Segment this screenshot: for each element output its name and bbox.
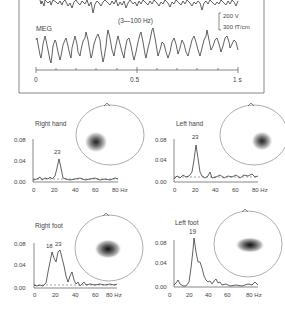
scale-bar (219, 13, 221, 30)
ytick: 0.04 (14, 262, 26, 268)
panel-right-foot: Right foot 18 23 0.08 0.04 0.00 0 20 40 … (14, 213, 143, 298)
scale-field: 300 fT/cm (223, 24, 250, 30)
xtick: 0 (173, 187, 177, 193)
ytick: 0.08 (14, 137, 26, 143)
xtick: 0 (168, 292, 172, 298)
eeg-trace (40, 0, 238, 13)
activation-blob (235, 237, 265, 253)
panel-title: Right hand (35, 120, 67, 128)
top-panel: (3—100 Hz) MEG 200 V 300 fT/cm 0 0.5 1 s (19, 0, 264, 93)
ytick: 0.08 (14, 241, 26, 247)
panel-right-hand: Right hand 23 0.08 0.04 0.00 0 20 40 60 … (14, 103, 144, 193)
xtick: 80 Hz (112, 187, 128, 193)
xtick: 20 (52, 292, 59, 298)
time-tick-1s: 1 s (233, 76, 242, 83)
panel-title: Left hand (176, 120, 203, 127)
meg-trace (36, 28, 238, 63)
panel-left-foot: Left foot 19 0.08 0.04 0.00 0 20 40 60 8… (155, 209, 282, 298)
xtick: 60 (224, 292, 231, 298)
time-tick-0: 0 (34, 76, 38, 83)
peak-label: 18 (46, 243, 53, 249)
head-map (220, 105, 285, 165)
xtick: 40 (205, 292, 212, 298)
peak-label: 23 (55, 241, 62, 247)
ytick: 0.00 (155, 284, 167, 290)
xtick: 60 (232, 187, 239, 193)
xtick: 40 (72, 292, 79, 298)
xtick: 80 Hz (106, 292, 122, 298)
ytick: 0.00 (14, 179, 26, 185)
time-tick-0-5: 0.5 (130, 76, 139, 83)
xtick: 20 (192, 187, 199, 193)
panel-left-hand: Left hand 23 0.08 0.04 0.00 0 20 40 60 8… (155, 103, 285, 193)
xtick: 40 (72, 187, 79, 193)
ytick: 0.08 (155, 240, 167, 246)
peak-label: 23 (192, 134, 199, 140)
xtick: 80 Hz (246, 292, 262, 298)
xtick: 20 (186, 292, 193, 298)
peak-label: 19 (189, 228, 197, 235)
xtick: 0 (33, 292, 37, 298)
panel-title: Left foot (175, 219, 199, 226)
ytick: 0.04 (14, 158, 26, 164)
ytick: 0.00 (155, 179, 167, 185)
ytick: 0.04 (155, 157, 167, 163)
activation-blob (84, 131, 108, 153)
xtick: 80 Hz (252, 187, 268, 193)
ytick: 0.04 (155, 260, 167, 266)
head-map (76, 105, 144, 165)
scale-voltage: 200 V (223, 13, 239, 19)
xtick: 60 (92, 292, 99, 298)
activation-blob (251, 131, 273, 151)
ytick: 0.00 (14, 285, 26, 291)
xtick: 60 (92, 187, 99, 193)
figure: (3—100 Hz) MEG 200 V 300 fT/cm 0 0.5 1 s… (0, 0, 285, 314)
xtick: 20 (51, 187, 58, 193)
ytick: 0.08 (155, 137, 167, 143)
band-label: (3—100 Hz) (118, 17, 153, 25)
peak-label: 23 (54, 149, 61, 155)
panel-title: Right foot (35, 222, 63, 230)
xtick: 0 (32, 187, 36, 193)
activation-blob (94, 239, 122, 259)
xtick: 40 (212, 187, 219, 193)
meg-label: MEG (36, 25, 52, 32)
